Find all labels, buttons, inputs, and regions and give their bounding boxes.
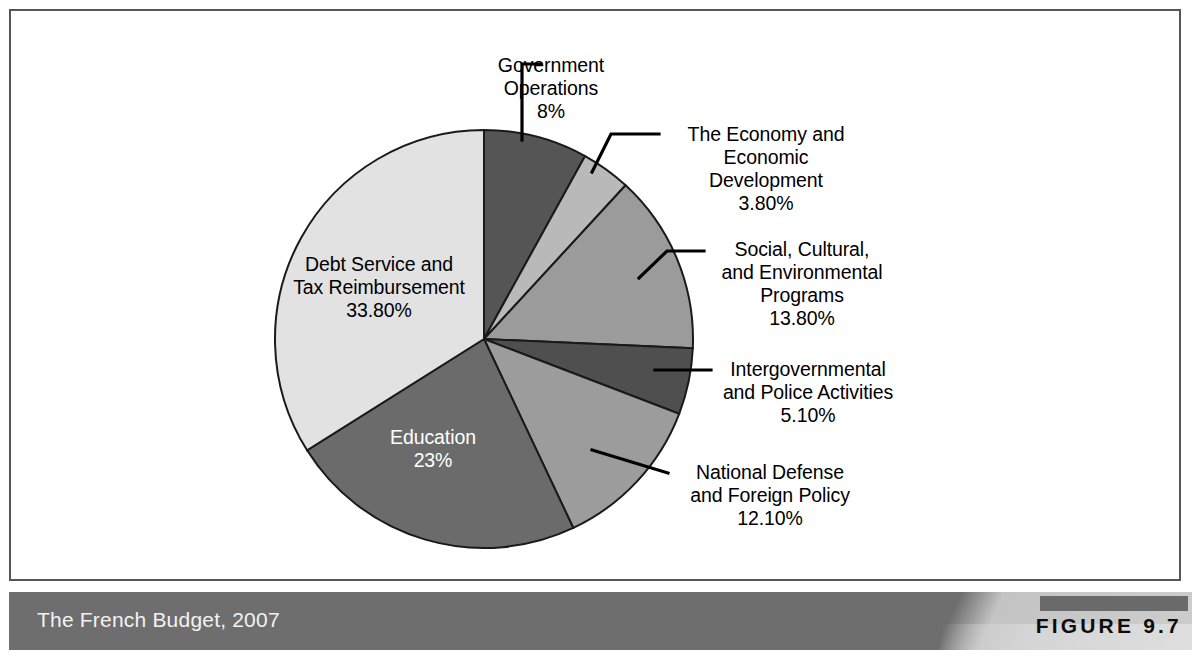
figure-frame: Government Operations 8% The Economy and… bbox=[9, 9, 1181, 581]
pie-label-economy-development: The Economy and Economic Development 3.8… bbox=[688, 123, 845, 215]
pie-label-value: 13.80% bbox=[722, 307, 883, 330]
pie-label-line: Development bbox=[688, 169, 845, 192]
pie-label-debt-service-tax-reimbursement: Debt Service and Tax Reimbursement 33.80… bbox=[293, 253, 465, 322]
pie-label-line: Economic bbox=[688, 146, 845, 169]
caption-dark-block bbox=[1040, 596, 1188, 611]
pie-label-value: 8% bbox=[498, 100, 604, 123]
figure-caption-bar: The French Budget, 2007 FIGURE 9.7 bbox=[9, 592, 1192, 650]
pie-label-education: Education 23% bbox=[390, 426, 476, 472]
pie-label-line: and Environmental bbox=[722, 261, 883, 284]
figure-number-label: FIGURE 9.7 bbox=[1036, 614, 1182, 638]
pie-label-line: Social, Cultural, bbox=[722, 238, 883, 261]
pie-label-line: Debt Service and bbox=[293, 253, 465, 276]
pie-label-value: 3.80% bbox=[688, 192, 845, 215]
pie-label-line: and Police Activities bbox=[723, 381, 893, 404]
pie-label-social-cultural-environmental: Social, Cultural, and Environmental Prog… bbox=[722, 238, 883, 330]
pie-chart bbox=[22, 22, 1190, 590]
pie-label-line: Programs bbox=[722, 284, 883, 307]
pie-label-line: National Defense bbox=[690, 461, 850, 484]
pie-label-government-operations: Government Operations 8% bbox=[498, 54, 604, 123]
pie-slices bbox=[275, 130, 693, 548]
pie-label-national-defense-foreign-policy: National Defense and Foreign Policy 12.1… bbox=[690, 461, 850, 530]
pie-label-value: 23% bbox=[390, 449, 476, 472]
figure-caption-title: The French Budget, 2007 bbox=[37, 608, 280, 632]
pie-label-line: Education bbox=[390, 426, 476, 449]
bottom-strip bbox=[0, 650, 1192, 662]
pie-label-line: Operations bbox=[498, 77, 604, 100]
pie-label-value: 12.10% bbox=[690, 507, 850, 530]
chart-area: Government Operations 8% The Economy and… bbox=[22, 22, 1190, 590]
pie-label-line: Tax Reimbursement bbox=[293, 276, 465, 299]
figure-container: Government Operations 8% The Economy and… bbox=[0, 0, 1192, 662]
pie-label-value: 5.10% bbox=[723, 404, 893, 427]
pie-label-line: The Economy and bbox=[688, 123, 845, 146]
pie-label-intergovernmental-police: Intergovernmental and Police Activities … bbox=[723, 358, 893, 427]
pie-label-value: 33.80% bbox=[293, 299, 465, 322]
pie-label-line: Intergovernmental bbox=[723, 358, 893, 381]
pie-label-line: Government bbox=[498, 54, 604, 77]
pie-label-line: and Foreign Policy bbox=[690, 484, 850, 507]
